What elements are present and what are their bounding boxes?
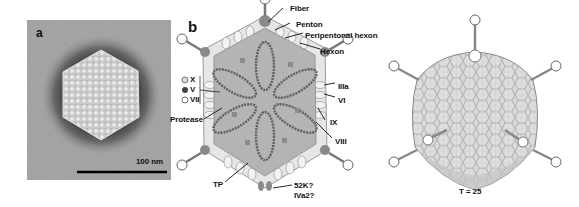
- label-ix: IX: [330, 119, 337, 127]
- label-penton: Penton: [296, 21, 323, 29]
- triangulation-number-label: T = 25: [459, 188, 481, 196]
- virion-micrograph-image: [27, 20, 171, 180]
- label-fiber: Fiber: [290, 5, 309, 13]
- icosahedral-capsid-rendering: [385, 10, 565, 200]
- label-viii: VIII: [335, 138, 347, 146]
- label-hexon: Hexon: [320, 48, 344, 56]
- label-52k: 52K?: [294, 182, 313, 190]
- legend-label-x: X: [190, 76, 195, 84]
- label-tp: TP: [213, 181, 223, 189]
- core: [214, 28, 316, 176]
- label-iiia: IIIa: [338, 83, 349, 91]
- label-iva2: IVa2?: [294, 192, 314, 200]
- panel-a-micrograph: a 100 nm: [27, 20, 171, 180]
- legend-label-vii: VII: [190, 96, 199, 104]
- scale-bar-label: 100 nm: [136, 158, 163, 166]
- legend-label-v: V: [190, 86, 195, 94]
- label-peripentonal-hexon: Peripentonal hexon: [305, 32, 377, 40]
- panel-letter-a: a: [36, 27, 43, 39]
- label-vi: VI: [338, 97, 345, 105]
- label-protease: Protease: [170, 116, 203, 124]
